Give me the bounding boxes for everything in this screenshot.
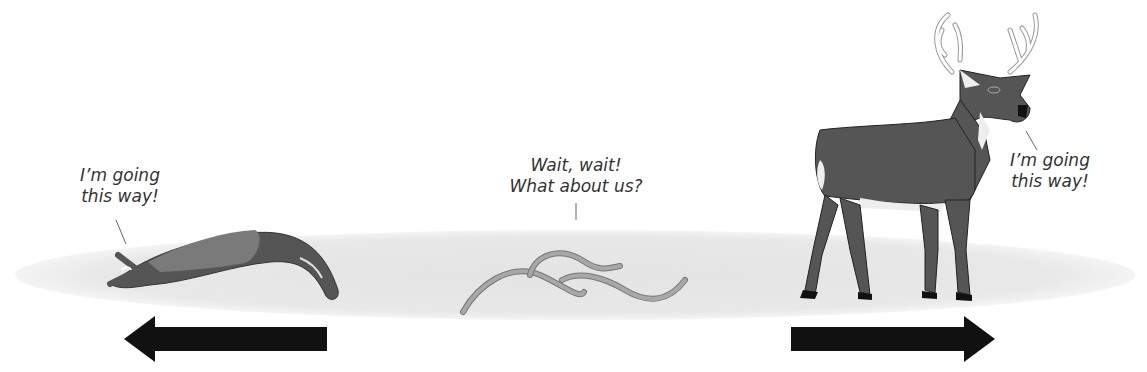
slug-pointer-line — [116, 220, 126, 244]
worms-speech-label: Wait, wait! What about us? — [496, 155, 656, 197]
right-arrow-icon — [791, 316, 995, 362]
dispersal-diagram: I’m going this way! Wait, wait! What abo… — [0, 0, 1147, 372]
deer-speech-label: I’m going this way! — [990, 150, 1110, 192]
slug-speech-label: I’m going this way! — [60, 165, 180, 207]
left-arrow-icon — [124, 316, 327, 362]
deer-pointer-line — [1026, 131, 1037, 150]
